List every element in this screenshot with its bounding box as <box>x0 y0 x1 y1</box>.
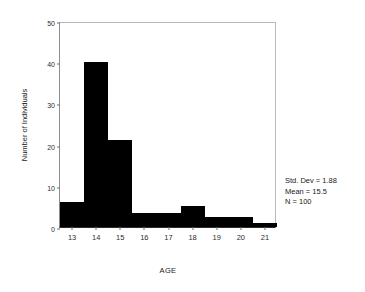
statistics-annotation: Std. Dev = 1.88 Mean = 15.5 N = 100 <box>285 176 337 208</box>
y-tick-label: 50 <box>47 20 55 27</box>
plot-area: 01020304050 131415161718192021 <box>59 22 276 228</box>
x-tick-label: 20 <box>237 234 245 242</box>
histogram-bars <box>60 23 275 227</box>
x-tick-mark <box>168 227 169 230</box>
x-tick-label: 16 <box>140 234 148 242</box>
y-axis-title: Number of Individuals <box>20 89 29 162</box>
x-tick-label: 21 <box>261 234 269 242</box>
x-tick-mark <box>96 227 97 230</box>
histogram-bar <box>253 223 277 227</box>
x-tick-mark <box>120 227 121 230</box>
mean-text: Mean = 15.5 <box>285 187 337 198</box>
x-tick-label: 15 <box>116 234 124 242</box>
x-tick-mark <box>144 227 145 230</box>
x-tick-label: 13 <box>68 234 76 242</box>
histogram-bar <box>156 213 180 227</box>
x-tick-label: 14 <box>92 234 100 242</box>
x-tick-mark <box>192 227 193 230</box>
y-tick-label: 20 <box>47 143 55 150</box>
y-tick-mark <box>57 229 60 230</box>
histogram-bar <box>84 62 108 227</box>
x-tick-mark <box>216 227 217 230</box>
histogram-bar <box>132 213 156 227</box>
histogram-figure: Number of Individuals AGE 01020304050 13… <box>0 0 365 292</box>
x-tick-mark <box>240 227 241 230</box>
y-tick-label: 10 <box>47 184 55 191</box>
n-text: N = 100 <box>285 197 337 208</box>
x-tick-label: 18 <box>188 234 196 242</box>
histogram-bar <box>229 217 253 227</box>
x-tick-label: 19 <box>213 234 221 242</box>
y-tick-label: 40 <box>47 61 55 68</box>
histogram-bar <box>60 202 84 227</box>
x-tick-mark <box>264 227 265 230</box>
x-tick-mark <box>72 227 73 230</box>
histogram-bar <box>205 217 229 227</box>
histogram-bar <box>108 140 132 227</box>
std-dev-text: Std. Dev = 1.88 <box>285 176 337 187</box>
y-tick-label: 0 <box>51 226 55 233</box>
histogram-bar <box>181 206 205 227</box>
x-tick-label: 17 <box>164 234 172 242</box>
x-axis-title: AGE <box>159 266 176 275</box>
y-tick-label: 30 <box>47 102 55 109</box>
